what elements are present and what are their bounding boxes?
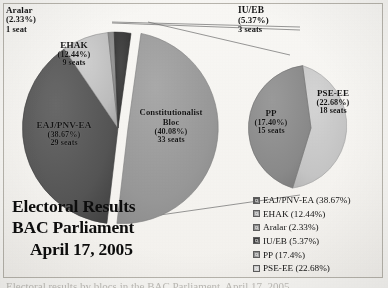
label-ehak-name: EHAK	[41, 40, 107, 50]
legend-label: EHAK (12.44%)	[263, 209, 325, 219]
legend-item: PP (17.4%)	[253, 248, 385, 260]
label-aralar-seats: 1 seat	[6, 25, 76, 34]
label-eaj-pnv-ea-seats: 29 seats	[12, 139, 116, 148]
label-pse-ee-seats: 18 seats	[300, 107, 366, 116]
label-pse-ee-name: PSE-EE	[300, 88, 366, 98]
chart-title-line1: Electoral Results	[12, 196, 202, 217]
label-constitutionalist-bloc: Constitutionalist Bloc (40.08%) 33 seats	[123, 108, 219, 145]
legend-label: IU/EB (5.37%)	[263, 236, 319, 246]
legend-label: PSE-EE (22.68%)	[263, 263, 330, 273]
label-iu-eb-seats: 3 seats	[238, 25, 316, 34]
label-eaj-pnv-ea: EAJ/PNV-EA (38.67%) 29 seats	[12, 120, 116, 148]
label-eaj-pnv-ea-name: EAJ/PNV-EA	[12, 120, 116, 130]
chart-title: Electoral Results BAC Parliament April 1…	[12, 196, 202, 260]
legend-swatch-icon	[253, 251, 260, 258]
legend-label: PP (17.4%)	[263, 250, 305, 260]
label-ehak-seats: 9 seats	[41, 59, 107, 68]
electoral-results-figure: Aralar (2.33%) 1 seat IU/EB (5.37%) 3 se…	[0, 0, 388, 288]
figure-caption: Electoral results by blocs in the BAC Pa…	[6, 280, 382, 288]
chart-title-line3: April 17, 2005	[12, 239, 202, 260]
label-constitutionalist-bloc-name2: Bloc	[123, 118, 219, 128]
label-ehak: EHAK (12.44%) 9 seats	[41, 40, 107, 68]
label-iu-eb-percent: (5.37%)	[238, 16, 316, 26]
legend-swatch-icon	[253, 237, 260, 244]
legend-item: PSE-EE (22.68%)	[253, 262, 385, 274]
label-iu-eb: IU/EB (5.37%) 3 seats	[238, 5, 316, 35]
label-aralar-percent: (2.33%)	[6, 15, 76, 25]
legend-item: IU/EB (5.37%)	[253, 235, 385, 247]
chart-legend: EAJ/PNV-EA (38.67%) EHAK (12.44%) Aralar…	[253, 194, 385, 275]
label-pp-name: PP	[240, 108, 302, 118]
label-aralar: Aralar (2.33%) 1 seat	[6, 5, 76, 34]
legend-label: EAJ/PNV-EA (38.67%)	[263, 195, 350, 205]
legend-swatch-icon	[253, 224, 260, 231]
label-pp-seats: 15 seats	[240, 127, 302, 136]
legend-swatch-icon	[253, 265, 260, 272]
legend-item: EHAK (12.44%)	[253, 208, 385, 220]
legend-swatch-icon	[253, 197, 260, 204]
label-pp: PP (17.40%) 15 seats	[240, 108, 302, 136]
legend-swatch-icon	[253, 210, 260, 217]
label-constitutionalist-bloc-seats: 33 seats	[123, 136, 219, 145]
label-iu-eb-name: IU/EB	[238, 5, 316, 16]
legend-label: Aralar (2.33%)	[263, 222, 319, 232]
label-pse-ee: PSE-EE (22.68%) 18 seats	[300, 88, 366, 116]
legend-item: Aralar (2.33%)	[253, 221, 385, 233]
chart-title-line2: BAC Parliament	[12, 217, 202, 238]
legend-item: EAJ/PNV-EA (38.67%)	[253, 194, 385, 206]
